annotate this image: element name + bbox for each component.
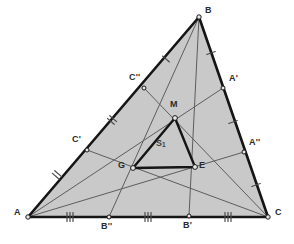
point-A-double-prime — [242, 150, 246, 154]
region-s1-subscript: 1 — [162, 141, 166, 148]
point-A — [26, 215, 30, 219]
label-point-B: B — [205, 6, 212, 15]
label-point-B-double-prime: B'' — [101, 222, 112, 231]
label-point-B-prime: B' — [183, 221, 192, 230]
label-point-E: E — [199, 161, 205, 170]
label-point-A: A — [14, 208, 21, 217]
point-G — [131, 166, 136, 171]
point-A-prime — [221, 86, 225, 90]
label-point-M: M — [170, 100, 178, 109]
label-point-C: C — [275, 208, 282, 217]
point-C-double-prime — [142, 86, 146, 90]
label-point-C-double-prime: C'' — [129, 73, 140, 82]
point-B — [197, 15, 201, 19]
geometry-canvas — [0, 0, 294, 244]
point-B-prime — [187, 214, 191, 218]
triangle-ABC-fill — [28, 17, 268, 217]
point-C — [266, 215, 270, 219]
geometry-figure: A B C A' B' C' A'' B'' C'' M G E S1 — [0, 0, 294, 244]
label-region-s1: S1 — [156, 139, 166, 148]
point-B-double-prime — [107, 215, 111, 219]
point-E — [193, 165, 198, 170]
label-point-A-double-prime: A'' — [249, 138, 260, 147]
label-point-A-prime: A' — [229, 74, 238, 83]
label-point-C-prime: C' — [72, 135, 81, 144]
label-point-G: G — [118, 161, 125, 170]
point-C-prime — [85, 148, 89, 152]
point-M — [173, 116, 178, 121]
